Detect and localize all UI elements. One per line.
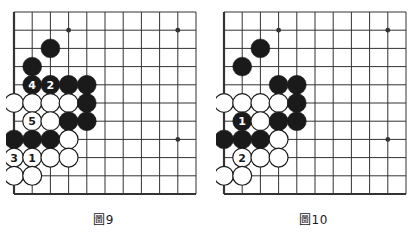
black-stone[interactable] [77, 112, 96, 131]
white-stone[interactable] [59, 148, 78, 167]
white-stone[interactable] [216, 94, 233, 113]
black-stone[interactable] [269, 75, 288, 94]
caption-figure-9: 圖9 [0, 210, 207, 227]
black-stone[interactable] [287, 112, 306, 131]
white-stone[interactable] [269, 148, 288, 167]
white-stone[interactable] [269, 94, 288, 113]
white-stone[interactable] [251, 148, 270, 167]
go-board-svg-figure-9: 42531 [6, 4, 202, 204]
black-stone[interactable] [233, 130, 252, 149]
white-stone[interactable] [23, 166, 42, 185]
white-stone[interactable] [216, 166, 233, 185]
white-stone[interactable] [6, 94, 23, 113]
stone-move-number: 2 [238, 152, 246, 165]
caption-figure-10: 圖10 [210, 210, 417, 227]
stone-move-number: 4 [28, 79, 36, 92]
black-stone[interactable] [23, 57, 42, 76]
white-stone[interactable] [41, 94, 60, 113]
star-point [175, 137, 180, 142]
black-stone[interactable] [216, 130, 233, 149]
black-stone[interactable] [6, 130, 23, 149]
black-stone[interactable] [41, 130, 60, 149]
go-board-figure-10[interactable]: 12 [216, 4, 412, 204]
white-stone[interactable] [251, 112, 270, 131]
black-stone[interactable] [77, 94, 96, 113]
board-stones-figure-10: 12 [216, 39, 306, 185]
black-stone[interactable] [77, 75, 96, 94]
black-stone[interactable] [233, 57, 252, 76]
stone-move-number: 2 [47, 79, 55, 92]
white-stone[interactable] [23, 94, 42, 113]
white-stone[interactable] [251, 94, 270, 113]
star-point [385, 28, 390, 33]
white-stone[interactable] [269, 130, 288, 149]
white-stone[interactable] [6, 166, 23, 185]
white-stone[interactable] [41, 112, 60, 131]
white-stone[interactable] [233, 166, 252, 185]
white-stone[interactable] [41, 148, 60, 167]
black-stone[interactable] [41, 39, 60, 58]
star-point [385, 137, 390, 142]
black-stone[interactable] [23, 130, 42, 149]
board-stones-figure-9: 42531 [6, 39, 96, 185]
stone-move-number: 1 [28, 152, 36, 165]
black-stone[interactable] [269, 112, 288, 131]
black-stone[interactable] [287, 75, 306, 94]
black-stone[interactable] [251, 130, 270, 149]
black-stone[interactable] [287, 94, 306, 113]
black-stone[interactable] [59, 75, 78, 94]
go-diagram-figure-9: 42531 圖9 [0, 0, 207, 236]
star-point [175, 28, 180, 33]
go-board-svg-figure-10: 12 [216, 4, 412, 204]
stone-move-number: 3 [10, 152, 18, 165]
white-stone[interactable] [233, 94, 252, 113]
stone-move-number: 5 [28, 115, 36, 128]
stone-move-number: 1 [238, 115, 246, 128]
white-stone[interactable] [59, 94, 78, 113]
white-stone[interactable] [59, 130, 78, 149]
star-point [276, 28, 281, 33]
black-stone[interactable] [251, 39, 270, 58]
go-board-figure-9[interactable]: 42531 [6, 4, 202, 204]
go-diagram-figure-10: 12 圖10 [210, 0, 417, 236]
star-point [66, 28, 71, 33]
black-stone[interactable] [59, 112, 78, 131]
